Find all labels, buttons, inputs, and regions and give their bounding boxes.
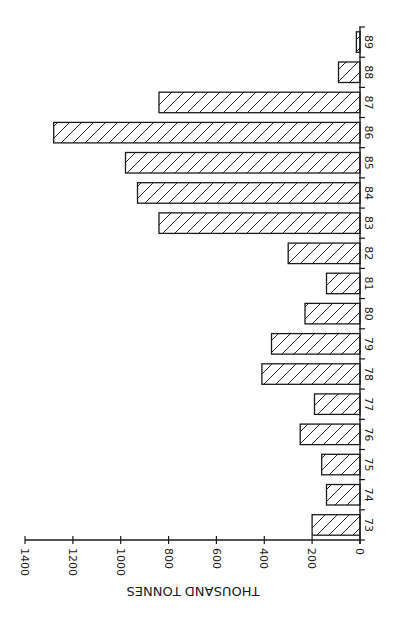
bars-group [54,32,360,535]
category-label: 80 [362,307,375,321]
value-tick-label: 200 [305,548,318,569]
bar-76 [300,424,360,445]
value-tick-label: 600 [210,548,223,569]
value-tick-label: 0 [353,548,366,555]
value-tick-label: 1000 [114,548,127,576]
bar-87 [159,92,360,113]
bar-83 [159,213,360,234]
bar-80 [305,303,360,324]
category-axis: 7374757677787980818283848586878889 [359,27,375,544]
bar-75 [322,454,360,475]
category-label: 76 [362,427,375,441]
category-label: 75 [362,458,375,472]
category-label: 87 [362,95,375,109]
category-label: 79 [362,337,375,351]
bar-77 [315,394,361,415]
value-tick-label: 800 [162,548,175,569]
bar-88 [339,62,361,83]
category-label: 77 [362,397,375,411]
bar-86 [54,122,360,142]
category-label: 86 [362,126,375,140]
category-label: 85 [362,156,375,170]
bar-73 [312,515,360,536]
category-label: 84 [362,186,375,200]
bar-79 [272,334,361,355]
bar-81 [327,273,361,294]
category-label: 73 [362,518,375,532]
bar-84 [138,183,361,204]
value-tick-label: 1200 [66,548,79,576]
bar-82 [288,243,360,264]
category-label: 89 [362,35,375,49]
category-label: 82 [362,246,375,260]
bar-chart: 7374757677787980818283848586878889 02004… [0,0,401,626]
category-label: 81 [362,277,375,291]
value-tick-label: 1400 [18,548,31,576]
category-label: 74 [362,488,375,502]
category-label: 78 [362,367,375,381]
value-axis: 0200400600800100012001400 [18,536,366,576]
bar-78 [262,364,360,385]
value-tick-label: 400 [257,548,270,569]
bar-74 [327,485,361,506]
category-label: 88 [362,65,375,79]
bar-85 [126,153,361,174]
value-axis-title: THOUSAND TONNES [127,584,261,599]
category-label: 83 [362,216,375,230]
